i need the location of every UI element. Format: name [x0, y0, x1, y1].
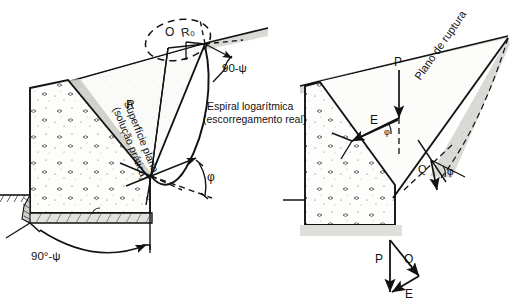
label-phi-plane: φ: [447, 166, 453, 177]
ground-hatch-left: [0, 195, 25, 202]
label-polygon-Q: Q: [404, 252, 413, 266]
label-polygon-P: P: [375, 252, 383, 266]
label-initial-radius-R0: R₀: [180, 24, 196, 40]
label-spiral-line1: Espiral logarítmica: [207, 100, 293, 112]
phi-angle-arc: [199, 163, 206, 196]
right-panel-force-equilibrium: [283, 36, 510, 292]
label-force-Q-right: Q: [418, 163, 427, 175]
label-angle-90-psi-top: 90-ψ: [222, 62, 247, 74]
label-polygon-E: E: [405, 287, 413, 301]
force-polygon-group: [390, 240, 419, 292]
toe-ray: [6, 223, 30, 238]
label-center-point-O: O: [165, 25, 174, 39]
label-force-P-right: P: [394, 55, 402, 69]
label-force-E-right: E: [370, 113, 378, 127]
label-spiral-line2: (escorregamento real): [203, 113, 306, 125]
label-phi-left: φ: [207, 170, 215, 184]
label-phi-wall: φ: [384, 127, 390, 137]
label-angle-90-psi-bottom: 90°-ψ: [31, 250, 60, 262]
bottom-angle-leg: [30, 223, 40, 232]
diagram-canvas: [0, 0, 527, 308]
geotechnical-retaining-wall-diagram: O R₀ R Superfície plano (solução prática…: [0, 0, 527, 308]
wall-base-shadow-right: [300, 225, 402, 236]
